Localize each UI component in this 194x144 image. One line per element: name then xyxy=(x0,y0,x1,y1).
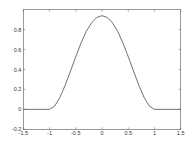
y-tick-label: -0.2 xyxy=(12,126,21,132)
y-tick-label: 0.2 xyxy=(14,86,22,92)
x-tick-label: -1 xyxy=(47,130,52,136)
y-tick-label: 0.6 xyxy=(14,47,22,53)
y-tick-label: 0.8 xyxy=(14,27,22,33)
line-chart: -1.5-1-0.500.511.5 -0.200.20.40.60.8 xyxy=(0,0,194,144)
y-tick-label: 0.4 xyxy=(14,67,22,73)
plot-area xyxy=(23,10,180,130)
x-tick-label: 0.5 xyxy=(124,130,132,136)
y-axis-tick-labels: -0.200.20.40.60.8 xyxy=(12,27,21,133)
x-tick-label: 1.5 xyxy=(177,130,185,136)
x-tick-label: -0.5 xyxy=(71,130,80,136)
y-tick-label: 0 xyxy=(18,106,21,112)
x-tick-label: 1 xyxy=(153,130,156,136)
x-axis-tick-labels: -1.5-1-0.500.511.5 xyxy=(19,130,185,136)
x-tick-label: 0 xyxy=(100,130,103,136)
